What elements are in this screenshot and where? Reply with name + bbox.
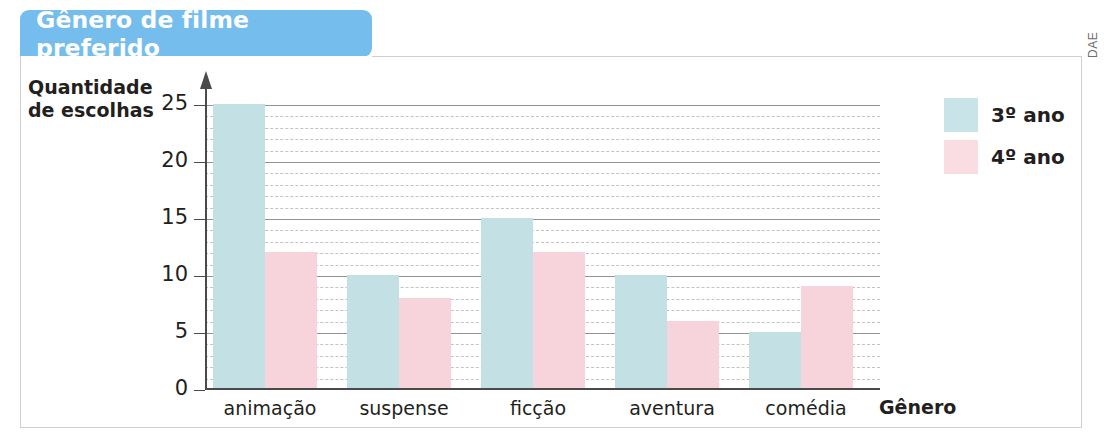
y-axis-tick [194, 162, 205, 163]
plot-area: 0510152025 animaçãosuspenseficçãoaventur… [205, 95, 880, 390]
legend-swatch [944, 140, 978, 174]
x-axis-category-label: aventura [607, 397, 737, 419]
gridline-major [205, 105, 880, 106]
legend: 3º ano4º ano [944, 98, 1065, 182]
legend-item: 3º ano [944, 98, 1065, 132]
credit-label: DAE [1086, 32, 1100, 58]
y-axis-tick [194, 333, 205, 334]
y-axis-tick [194, 276, 205, 277]
bar [615, 275, 667, 389]
y-axis-tick-label: 25 [148, 91, 188, 115]
chart-frame-top-edge [372, 56, 1082, 57]
legend-item: 4º ano [944, 140, 1065, 174]
gridline-major [205, 162, 880, 163]
bar [533, 252, 585, 389]
y-axis-line [205, 87, 207, 390]
gridline-minor [205, 208, 880, 209]
y-axis-tick [194, 105, 205, 106]
x-axis-category-label: ficção [473, 397, 603, 419]
bar [347, 275, 399, 389]
bar [399, 298, 451, 389]
bar [481, 218, 533, 389]
x-axis-category-label: animação [205, 397, 335, 419]
x-axis-category-label: comédia [741, 397, 871, 419]
page-title: Gênero de filme preferido [36, 6, 372, 62]
gridline-minor [205, 139, 880, 140]
gridline-minor [205, 128, 880, 129]
gridline-minor [205, 173, 880, 174]
bar [749, 332, 801, 389]
gridline-major [205, 219, 880, 220]
legend-swatch [944, 98, 978, 132]
bar [801, 286, 853, 389]
y-axis-tick [194, 219, 205, 220]
legend-label: 3º ano [991, 103, 1065, 127]
x-axis-title: Gênero [879, 396, 956, 418]
gridline-minor [205, 151, 880, 152]
gridline-minor [205, 242, 880, 243]
x-axis-line [205, 388, 880, 391]
bar [213, 104, 265, 389]
y-axis-tick-label: 5 [148, 319, 188, 343]
y-axis-tick-label: 10 [148, 262, 188, 286]
y-axis-tick-label: 0 [148, 376, 188, 400]
y-axis-tick-label: 20 [148, 148, 188, 172]
gridline-minor [205, 185, 880, 186]
y-axis-arrow-icon [200, 71, 212, 89]
legend-label: 4º ano [991, 145, 1065, 169]
gridline-minor [205, 116, 880, 117]
bar [667, 321, 719, 389]
bar [265, 252, 317, 389]
x-axis-category-label: suspense [339, 397, 469, 419]
chart-title-banner: Gênero de filme preferido [20, 10, 372, 57]
gridline-minor [205, 196, 880, 197]
y-axis-tick [194, 390, 205, 391]
y-axis-tick-label: 15 [148, 205, 188, 229]
gridline-minor [205, 230, 880, 231]
